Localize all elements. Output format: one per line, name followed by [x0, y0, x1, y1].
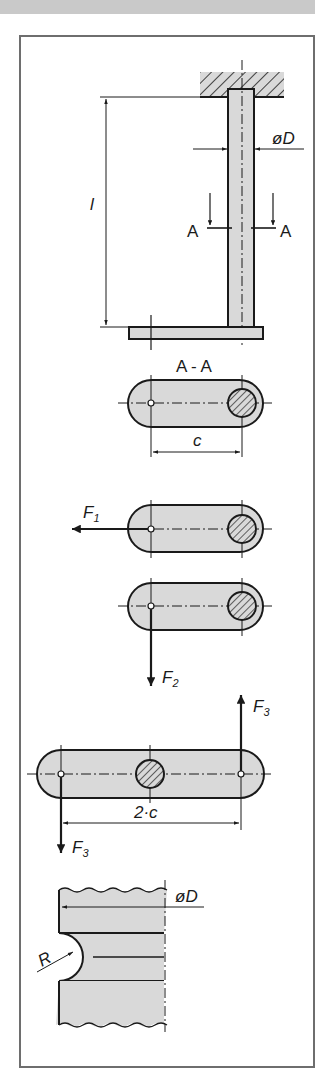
load-case-1: F1	[72, 500, 272, 558]
section-view: A - A c	[118, 357, 272, 457]
distance-label: c	[193, 431, 202, 450]
lever-side	[129, 327, 263, 339]
force-label-f3-down: F3	[72, 838, 89, 859]
shaft-segment-upper	[59, 888, 167, 933]
length-label: l	[90, 195, 95, 214]
shaft-segment-lower	[56, 981, 164, 1027]
side-view: l øD A A	[90, 60, 304, 350]
load-case-2: F2	[118, 578, 272, 689]
load-case-3: F3 F3 2·c	[27, 695, 272, 859]
section-marker-left: A	[187, 222, 199, 241]
shaft-section	[228, 389, 256, 417]
force-label-f3-up: F3	[253, 697, 270, 718]
lever-distance-label: 2·c	[133, 803, 158, 822]
shaft	[228, 89, 254, 327]
diameter-label: øD	[272, 129, 295, 148]
groove-diameter-label: øD	[175, 887, 198, 906]
section-marker-right: A	[280, 222, 292, 241]
force-label-f2: F2	[162, 668, 179, 689]
groove-detail: øD R	[35, 880, 204, 1032]
radius-label: R	[35, 948, 55, 971]
force-label-f1: F1	[83, 503, 100, 524]
section-title: A - A	[176, 357, 213, 376]
diagram-canvas: l øD A A A - A c F1	[0, 0, 331, 1089]
pin-hole	[148, 400, 154, 406]
